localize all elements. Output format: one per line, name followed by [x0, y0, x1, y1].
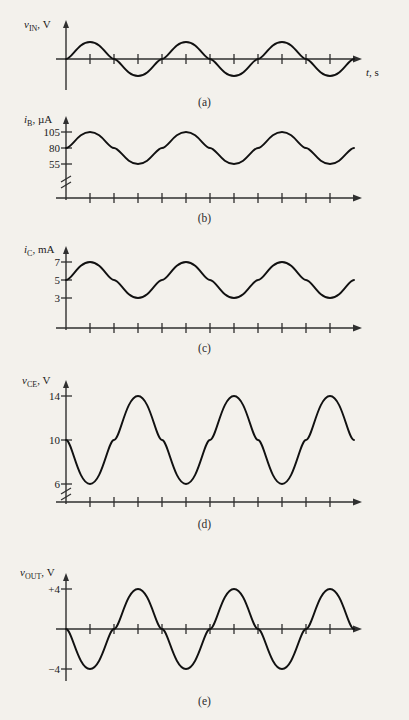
y-tick-label-b-80: 80	[49, 142, 61, 154]
y-axis-arrow-c	[63, 246, 69, 254]
x-axis-arrow-c	[353, 325, 362, 332]
caption-d: (d)	[0, 518, 409, 530]
waveform-curve-b	[66, 132, 354, 164]
caption-a: (a)	[0, 96, 409, 108]
y-axis-label-d: vCE, V	[22, 374, 50, 389]
y-tick-label-c-5: 5	[55, 274, 61, 286]
y-axis-label-c: iC, mA	[24, 243, 54, 258]
y-tick-label-d-14: 14	[49, 390, 61, 402]
caption-c: (c)	[0, 342, 409, 354]
panel-e: vOUT, V +4 −4	[0, 565, 409, 695]
plot-a-svg: vIN, V t, s	[0, 14, 409, 96]
panel-d: vCE, V 14 10 6	[0, 372, 409, 517]
x-axis-arrow-b	[353, 195, 362, 202]
y-axis-arrow-e	[63, 573, 69, 581]
y-tick-label-c-7: 7	[55, 256, 61, 268]
waveform-figure: vIN, V t, s	[0, 0, 409, 720]
y-tick-label-b-55: 55	[49, 158, 61, 170]
y-axis-label-a: vIN, V	[24, 18, 51, 33]
y-axis-arrow-d	[63, 380, 69, 388]
y-axis-arrow-a	[63, 20, 69, 28]
waveform-curve-c	[66, 262, 354, 298]
plot-d-svg: vCE, V 14 10 6	[0, 372, 409, 517]
panel-a: vIN, V t, s	[0, 14, 409, 96]
x-axis-arrow-d	[353, 499, 362, 506]
x-axis-label-a: t, s	[366, 66, 379, 78]
y-tick-label-e-minus4: −4	[48, 663, 60, 675]
y-axis-label-e: vOUT, V	[20, 566, 55, 581]
plot-e-svg: vOUT, V +4 −4	[0, 565, 409, 695]
caption-e: (e)	[0, 695, 409, 707]
plot-a: vIN, V t, s	[0, 14, 409, 96]
y-tick-label-c-3: 3	[55, 292, 61, 304]
panel-b: iB, µA 105 80 55	[0, 112, 409, 210]
plot-c-svg: iC, mA 7 5 3	[0, 242, 409, 340]
plot-b: iB, µA 105 80 55	[0, 112, 409, 210]
waveform-curve-d	[66, 396, 354, 484]
plot-e: vOUT, V +4 −4	[0, 565, 409, 695]
y-axis-arrow-b	[63, 116, 69, 124]
y-tick-label-d-6: 6	[55, 478, 61, 490]
y-tick-label-b-105: 105	[44, 126, 61, 138]
plot-b-svg: iB, µA 105 80 55	[0, 112, 409, 210]
y-tick-label-d-10: 10	[49, 434, 61, 446]
plot-d: vCE, V 14 10 6	[0, 372, 409, 517]
y-tick-label-e-plus4: +4	[48, 583, 60, 595]
caption-b: (b)	[0, 212, 409, 224]
panel-c: iC, mA 7 5 3	[0, 242, 409, 340]
plot-c: iC, mA 7 5 3	[0, 242, 409, 340]
